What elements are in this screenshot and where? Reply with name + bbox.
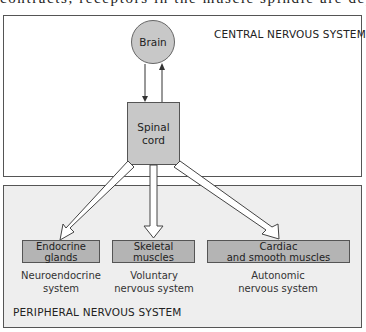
cns-title: CENTRAL NERVOUS SYSTEM bbox=[214, 28, 366, 40]
neuroendocrine-line-1: Neuroendocrine bbox=[14, 269, 108, 282]
endocrine-label-1: Endocrine bbox=[36, 241, 86, 252]
cardiac-label-1: Cardiac bbox=[227, 241, 331, 252]
endocrine-label-2: glands bbox=[36, 252, 86, 263]
autonomic-line-2: nervous system bbox=[228, 282, 328, 295]
autonomic-nervous-system-label: Autonomic nervous system bbox=[228, 269, 328, 295]
spinal-cord-label-1: Spinal bbox=[137, 121, 169, 134]
cardiac-label-2: and smooth muscles bbox=[227, 252, 331, 263]
skeletal-label-2: muscles bbox=[133, 252, 174, 263]
neuroendocrine-system-label: Neuroendocrine system bbox=[14, 269, 108, 295]
spinal-cord-node: Spinal cord bbox=[127, 102, 180, 165]
voluntary-nervous-system-label: Voluntary nervous system bbox=[108, 269, 200, 295]
pns-title: PERIPHERAL NERVOUS SYSTEM bbox=[13, 306, 181, 318]
endocrine-glands-box: Endocrine glands bbox=[22, 240, 100, 263]
skeletal-muscles-box: Skeletal muscles bbox=[112, 240, 195, 263]
brain-node: Brain bbox=[131, 20, 175, 64]
skeletal-label-1: Skeletal bbox=[133, 241, 174, 252]
spinal-cord-label-2: cord bbox=[137, 134, 169, 147]
cardiac-smooth-muscles-box: Cardiac and smooth muscles bbox=[207, 240, 350, 263]
neuroendocrine-line-2: system bbox=[14, 282, 108, 295]
voluntary-line-1: Voluntary bbox=[108, 269, 200, 282]
page-text-above: contracts, receptors in the muscle spind… bbox=[0, 0, 366, 7]
brain-label: Brain bbox=[139, 36, 167, 48]
autonomic-line-1: Autonomic bbox=[228, 269, 328, 282]
voluntary-line-2: nervous system bbox=[108, 282, 200, 295]
